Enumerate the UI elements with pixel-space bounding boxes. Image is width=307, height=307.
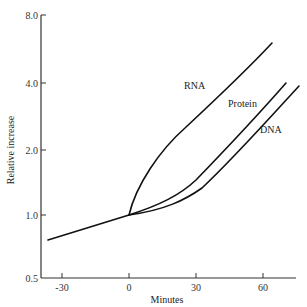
protein-label: Protein: [228, 98, 257, 109]
y-axis-title: Relative increase: [5, 115, 16, 184]
chart: 8.0 4.0 2.0 1.0 0.5 -30 0 30 60 Minutes …: [0, 0, 307, 307]
x-axis-title: Minutes: [151, 294, 184, 305]
y-tick-label: 8.0: [26, 10, 39, 21]
series-baseline-line: [48, 215, 129, 240]
x-tick-label: 60: [258, 282, 268, 293]
y-tick-label: 2.0: [26, 145, 39, 156]
y-tick-label: 0.5: [26, 273, 39, 284]
y-tick-label: 4.0: [26, 78, 39, 89]
y-tick-label: 1.0: [26, 210, 39, 221]
x-tick-label: -30: [55, 282, 68, 293]
rna-label: RNA: [184, 80, 206, 91]
x-tick-label: 0: [127, 282, 132, 293]
x-tick-label: 30: [191, 282, 201, 293]
y-ticks: 8.0 4.0 2.0 1.0 0.5: [26, 10, 47, 284]
series-dna-line: [129, 86, 299, 215]
x-ticks: -30 0 30 60: [55, 273, 268, 293]
series-protein-line: [129, 83, 286, 215]
dna-label: DNA: [260, 124, 282, 135]
